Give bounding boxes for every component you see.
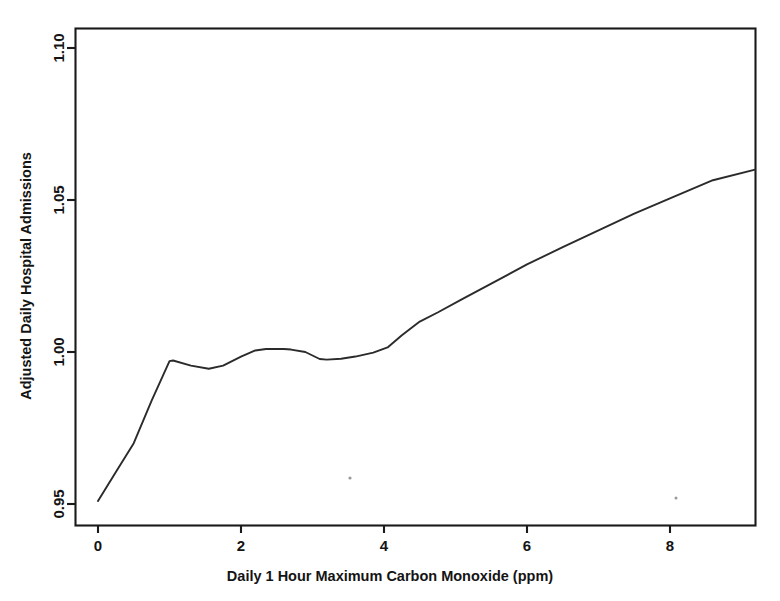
x-tick-label-4: 4	[380, 537, 389, 554]
chart-figure: 1.10 1.05 1.00 0.95 0 2 4 6 8 Daily 1 Ho…	[0, 0, 780, 601]
plot-frame	[76, 29, 756, 526]
x-tick-label-8: 8	[666, 537, 674, 554]
y-tick-label-0.95: 0.95	[50, 489, 67, 518]
y-tick-label-1.10: 1.10	[50, 33, 67, 62]
scan-speck	[348, 476, 351, 479]
x-tick-label-2: 2	[237, 537, 245, 554]
x-axis-title: Daily 1 Hour Maximum Carbon Monoxide (pp…	[227, 568, 553, 584]
y-tick-label-1.00: 1.00	[50, 337, 67, 366]
line-chart: 1.10 1.05 1.00 0.95 0 2 4 6 8 Daily 1 Ho…	[0, 0, 780, 601]
x-tick-label-0: 0	[94, 537, 102, 554]
data-curve-line	[98, 170, 755, 501]
x-tick-label-6: 6	[523, 537, 531, 554]
y-axis-title: Adjusted Daily Hospital Admissions	[18, 152, 34, 400]
y-tick-label-1.05: 1.05	[50, 185, 67, 214]
y-axis-ticks	[67, 48, 75, 504]
scan-speck	[675, 497, 678, 500]
